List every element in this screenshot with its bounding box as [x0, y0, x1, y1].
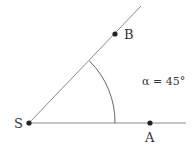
point-s: [26, 120, 31, 125]
angle-label: α = 45°: [142, 75, 185, 88]
label-s: S: [14, 116, 23, 131]
point-b: [112, 31, 117, 36]
ray-sb: [29, 6, 141, 123]
point-a: [147, 120, 152, 125]
angle-arc: [90, 61, 116, 123]
label-b: B: [124, 27, 134, 42]
angle-diagram: S A B α = 45°: [0, 0, 196, 150]
label-a: A: [144, 130, 155, 145]
